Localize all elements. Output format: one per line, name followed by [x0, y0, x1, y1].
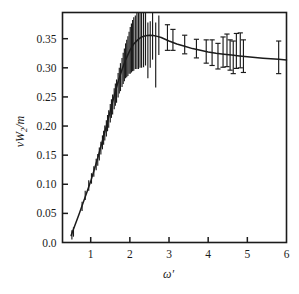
figure-container: 0.00.050.100.150.200.250.300.35123456 ω′… — [0, 0, 299, 294]
x-tick-label-3: 4 — [205, 248, 211, 260]
y-tick-label-3: 0.15 — [36, 149, 56, 161]
x-tick-label-0: 1 — [88, 248, 94, 260]
y-tick-label-5: 0.25 — [36, 91, 56, 103]
x-tick-label-1: 2 — [127, 248, 133, 260]
x-tick-label-4: 5 — [244, 248, 250, 260]
y-tick-label-6: 0.30 — [36, 62, 56, 74]
y-tick-label-2: 0.10 — [36, 178, 56, 190]
y-tick-label-0: 0.0 — [42, 237, 57, 249]
x-axis-title: ω′ — [163, 267, 174, 281]
x-tick-label-2: 3 — [166, 248, 172, 260]
y-tick-label-1: 0.05 — [36, 207, 56, 219]
y-tick-label-7: 0.35 — [36, 33, 56, 45]
y-tick-label-4: 0.20 — [36, 120, 56, 132]
chart-canvas: 0.00.050.100.150.200.250.300.35123456 ω′… — [0, 0, 299, 294]
x-tick-label-5: 6 — [284, 248, 290, 260]
